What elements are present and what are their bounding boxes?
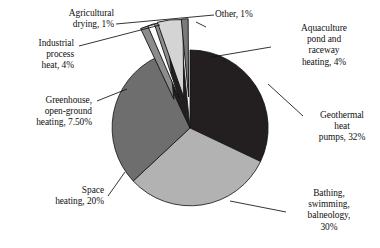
leader-line-geothermal (268, 84, 303, 116)
pie-label-aquaculture-pond-raceway-heating: Aquaculture pond and raceway heating, 4% (277, 23, 371, 68)
leader-line-space-heating (108, 172, 125, 196)
pie-label-industrial-process-heat: Industrial process heat, 4% (2, 38, 74, 72)
pie-label-agricultural-drying: Agricultural drying, 1% (28, 8, 114, 30)
leader-line-aquaculture (212, 47, 271, 57)
pie-label-greenhouse-open-ground-heating: Greenhouse, open-ground heating, 7.50% (6, 95, 92, 129)
pie-chart-figure: Agricultural drying, 1% Industrial proce… (0, 0, 380, 248)
pie-label-space-heating: Space heating, 20% (22, 185, 104, 207)
pie-slices (112, 19, 268, 206)
pie-label-bathing-swimming-balneology: Bathing, swimming, balneology, 30% (288, 188, 370, 233)
leader-line-bathing (230, 201, 286, 212)
pie-label-geothermal-heat-pumps: Geothermal heat pumps, 32% (305, 110, 379, 144)
leader-line-other (196, 22, 206, 27)
pie-label-other: Other, 1% (215, 9, 285, 20)
